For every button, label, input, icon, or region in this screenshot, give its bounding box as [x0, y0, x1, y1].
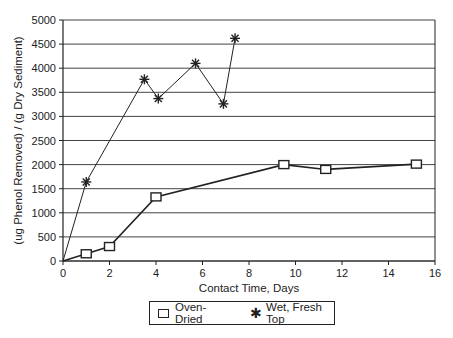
- y-tick-label: 3000: [32, 110, 56, 122]
- y-tick-label: 2500: [32, 135, 56, 147]
- legend: Oven-Dried ✱ Wet, Fresh Top: [149, 301, 335, 325]
- y-axis-label: (ug Phenol Removed) / (g Dry Sediment): [12, 36, 24, 245]
- y-tick-label: 3500: [32, 86, 56, 98]
- asterisk-marker-icon: ✱: [250, 306, 262, 320]
- square-marker: [279, 161, 289, 169]
- y-tick-label: 4500: [32, 38, 56, 50]
- series-line: [63, 38, 235, 261]
- y-tick-label: 1500: [32, 183, 56, 195]
- x-tick-label: 16: [429, 267, 441, 279]
- x-tick-label: 6: [199, 267, 205, 279]
- y-tick-label: 5000: [32, 14, 56, 26]
- legend-item-oven-dried: Oven-Dried: [158, 301, 228, 325]
- square-marker: [411, 160, 421, 168]
- x-tick-label: 8: [246, 267, 252, 279]
- y-tick-label: 2000: [32, 159, 56, 171]
- legend-item-wet-fresh-top: ✱ Wet, Fresh Top: [236, 301, 334, 325]
- legend-label: Wet, Fresh Top: [266, 301, 334, 325]
- x-tick-label: 14: [382, 267, 394, 279]
- x-tick-label: 2: [106, 267, 112, 279]
- y-tick-label: 1000: [32, 207, 56, 219]
- square-marker: [321, 165, 331, 173]
- y-tick-label: 4000: [32, 62, 56, 74]
- x-axis-label: Contact Time, Days: [199, 282, 300, 294]
- x-tick-label: 0: [60, 267, 66, 279]
- square-marker: [105, 243, 115, 251]
- y-tick-label: 500: [38, 231, 56, 243]
- square-marker-icon: [158, 309, 169, 318]
- square-marker: [151, 193, 161, 201]
- legend-label: Oven-Dried: [175, 301, 228, 325]
- x-tick-label: 12: [336, 267, 348, 279]
- x-tick-label: 10: [289, 267, 301, 279]
- y-tick-label: 0: [50, 255, 56, 267]
- square-marker: [81, 250, 91, 258]
- x-tick-label: 4: [153, 267, 159, 279]
- chart-plot: 0500100015002000250030003500400045005000…: [0, 0, 453, 338]
